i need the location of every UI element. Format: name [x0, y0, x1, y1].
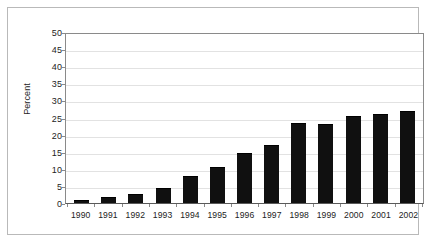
y-axis-tick-label: 35 [28, 80, 62, 89]
x-axis-tick-mark [122, 204, 123, 207]
y-axis-tick-mark [62, 101, 65, 102]
bar [210, 167, 225, 203]
x-axis-tick-mark [67, 204, 68, 207]
x-axis-tick-label: 1991 [94, 209, 121, 223]
bar-slot [204, 34, 231, 203]
x-axis-tick-mark [422, 204, 423, 207]
y-axis-tick-label: 30 [28, 97, 62, 106]
y-axis-tick-mark [62, 153, 65, 154]
y-axis-tick-mark [62, 187, 65, 188]
bar-slot [258, 34, 285, 203]
x-axis-tick-label: 1993 [149, 209, 176, 223]
y-axis-tick-label: 0 [28, 200, 62, 209]
bar [373, 114, 388, 203]
y-axis-tick-mark [62, 204, 65, 205]
x-axis-tick-labels: 1990199119921993199419951996199719981999… [65, 209, 424, 223]
y-axis-tick-label: 10 [28, 165, 62, 174]
bar [346, 116, 361, 203]
bar [264, 145, 279, 203]
bar [237, 153, 252, 203]
y-axis-tick-mark [62, 136, 65, 137]
y-axis-tick-label: 15 [28, 148, 62, 157]
bar-slot [340, 34, 367, 203]
bar-slot [367, 34, 394, 203]
x-axis-tick-mark [313, 204, 314, 207]
y-axis-tick-label: 20 [28, 131, 62, 140]
y-axis-tick-label: 40 [28, 63, 62, 72]
bar-slot [177, 34, 204, 203]
x-axis-tick-mark [176, 204, 177, 207]
x-axis-tick-label: 1997 [258, 209, 285, 223]
bar [101, 197, 116, 203]
y-axis-tick-mark [62, 50, 65, 51]
y-axis-tick-mark [62, 170, 65, 171]
x-axis-tick-mark [204, 204, 205, 207]
x-axis-tick-label: 1996 [231, 209, 258, 223]
bar-slot [312, 34, 339, 203]
x-axis-tick-mark [395, 204, 396, 207]
x-axis-tick-label: 1994 [176, 209, 203, 223]
y-axis-tick-mark [62, 67, 65, 68]
bar-slot [285, 34, 312, 203]
x-axis-tick-label: 1992 [122, 209, 149, 223]
figure-border: Percent 50454035302520151050 19901991199… [7, 7, 419, 235]
x-axis-tick-mark [149, 204, 150, 207]
x-axis-tick-marks [65, 204, 424, 208]
bar-slot [394, 34, 421, 203]
y-axis-tick-labels: 50454035302520151050 [28, 33, 62, 204]
x-axis-tick-label: 1999 [313, 209, 340, 223]
y-axis-tick-label: 45 [28, 46, 62, 55]
bar [400, 111, 415, 203]
bar [291, 123, 306, 203]
y-axis-tick-mark [62, 84, 65, 85]
bar [156, 188, 171, 203]
bar-slot [122, 34, 149, 203]
x-axis-tick-mark [340, 204, 341, 207]
y-axis-tick-label: 5 [28, 182, 62, 191]
x-axis-tick-label: 1995 [204, 209, 231, 223]
bar-slot [95, 34, 122, 203]
bar-slot [149, 34, 176, 203]
y-axis-tick-label: 50 [28, 29, 62, 38]
x-axis-tick-label: 2000 [340, 209, 367, 223]
x-axis-tick-label: 1990 [67, 209, 94, 223]
bar-slot [68, 34, 95, 203]
bar [183, 176, 198, 203]
x-axis-tick-label: 2002 [395, 209, 422, 223]
x-axis-tick-mark [258, 204, 259, 207]
x-axis-tick-label: 1998 [286, 209, 313, 223]
plot-area [65, 33, 424, 204]
y-axis-tick-mark [62, 33, 65, 34]
bar-series [66, 34, 423, 203]
y-axis-tick-label: 25 [28, 114, 62, 123]
x-axis-tick-mark [94, 204, 95, 207]
x-axis-tick-mark [231, 204, 232, 207]
x-axis-tick-mark [367, 204, 368, 207]
bar [74, 200, 89, 203]
bar-slot [231, 34, 258, 203]
bar [318, 124, 333, 203]
y-axis-tick-mark [62, 119, 65, 120]
bar [128, 194, 143, 203]
x-axis-tick-mark [285, 204, 286, 207]
x-axis-tick-label: 2001 [367, 209, 394, 223]
chart-figure: Percent 50454035302520151050 19901991199… [0, 0, 428, 243]
